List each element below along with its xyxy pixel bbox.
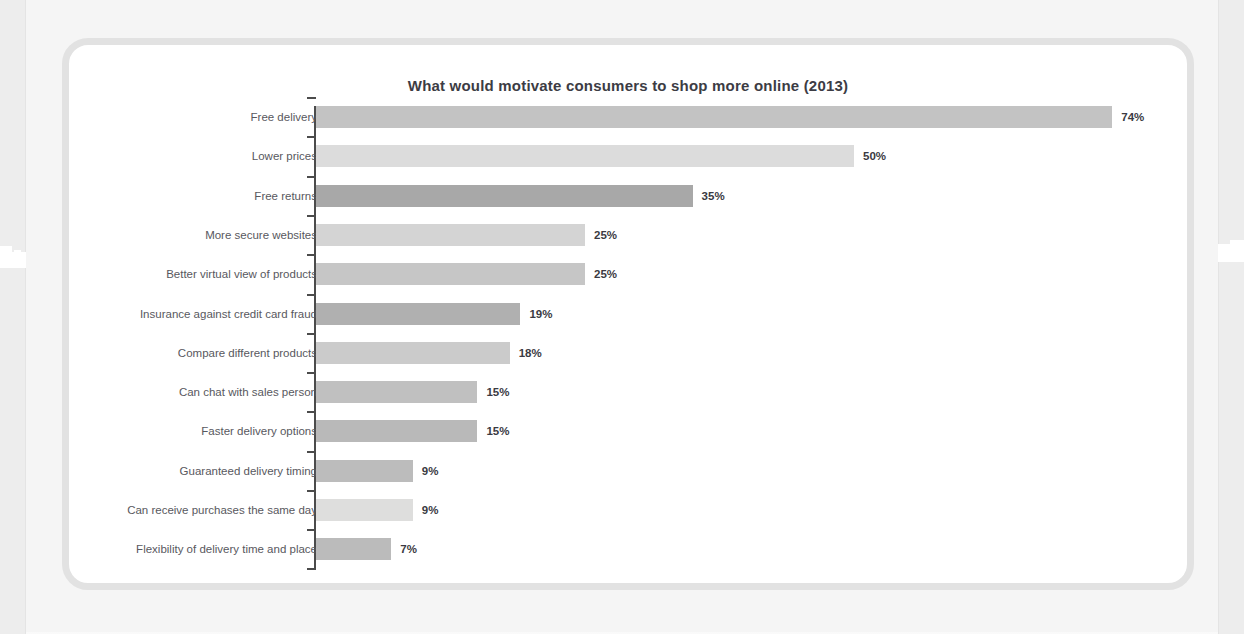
bar[interactable] bbox=[316, 381, 477, 403]
bar-value-label: 18% bbox=[519, 347, 542, 359]
chart-card: What would motivate consumers to shop mo… bbox=[62, 38, 1194, 590]
bar-category-label: Guaranteed delivery timing bbox=[180, 465, 317, 477]
bar-row: Can receive purchases the same day9% bbox=[69, 499, 1201, 521]
axis-tick bbox=[307, 254, 316, 256]
bar-row: Better virtual view of products25% bbox=[69, 263, 1201, 285]
bar[interactable] bbox=[316, 303, 520, 325]
bar-row: Compare different products18% bbox=[69, 342, 1201, 364]
bar-category-label: Free returns bbox=[254, 190, 317, 202]
bar-row: Insurance against credit card fraud19% bbox=[69, 303, 1201, 325]
axis-tick bbox=[307, 176, 316, 178]
bar[interactable] bbox=[316, 420, 477, 442]
bar-value-label: 25% bbox=[594, 268, 617, 280]
axis-tick bbox=[307, 97, 316, 99]
axis-tick bbox=[307, 333, 316, 335]
bar-row: Faster delivery options15% bbox=[69, 420, 1201, 442]
axis-tick bbox=[307, 529, 316, 531]
bar-category-label: Flexibility of delivery time and place bbox=[136, 543, 317, 555]
bar-value-label: 74% bbox=[1121, 111, 1144, 123]
bar-row: Free returns35% bbox=[69, 185, 1201, 207]
bar[interactable] bbox=[316, 342, 510, 364]
bar-value-label: 19% bbox=[529, 308, 552, 320]
bar-value-label: 15% bbox=[486, 425, 509, 437]
bar-row: Lower prices50% bbox=[69, 145, 1201, 167]
bar[interactable] bbox=[316, 263, 585, 285]
bar-category-label: Compare different products bbox=[178, 347, 317, 359]
bar-value-label: 50% bbox=[863, 150, 886, 162]
bar-value-label: 9% bbox=[422, 465, 439, 477]
bar[interactable] bbox=[316, 460, 413, 482]
bar[interactable] bbox=[316, 224, 585, 246]
axis-tick bbox=[307, 215, 316, 217]
bar[interactable] bbox=[316, 499, 413, 521]
torn-paper-edge-left bbox=[0, 0, 26, 634]
bar-row: Can chat with sales person15% bbox=[69, 381, 1201, 403]
bar-category-label: Lower prices bbox=[252, 150, 317, 162]
bar-chart-plot: Free delivery74%Lower prices50%Free retu… bbox=[69, 45, 1201, 597]
axis-tick bbox=[307, 411, 316, 413]
bar-category-label: More secure websites bbox=[205, 229, 317, 241]
bar-category-label: Better virtual view of products bbox=[166, 268, 317, 280]
axis-tick bbox=[307, 372, 316, 374]
bar-category-label: Insurance against credit card fraud bbox=[140, 308, 317, 320]
bar-row: Free delivery74% bbox=[69, 106, 1201, 128]
axis-tick bbox=[307, 568, 316, 570]
bar-category-label: Faster delivery options bbox=[201, 425, 317, 437]
bar-category-label: Can receive purchases the same day bbox=[127, 504, 317, 516]
bar[interactable] bbox=[316, 538, 391, 560]
torn-paper-edge-right bbox=[1218, 0, 1244, 634]
bar[interactable] bbox=[316, 145, 854, 167]
bar-value-label: 25% bbox=[594, 229, 617, 241]
bar[interactable] bbox=[316, 106, 1112, 128]
axis-tick bbox=[307, 490, 316, 492]
bar-value-label: 7% bbox=[400, 543, 417, 555]
bar-value-label: 35% bbox=[702, 190, 725, 202]
bar-row: Flexibility of delivery time and place7% bbox=[69, 538, 1201, 560]
bar-value-label: 9% bbox=[422, 504, 439, 516]
bar-value-label: 15% bbox=[486, 386, 509, 398]
bar[interactable] bbox=[316, 185, 693, 207]
bar-row: More secure websites25% bbox=[69, 224, 1201, 246]
bar-row: Guaranteed delivery timing9% bbox=[69, 460, 1201, 482]
axis-tick bbox=[307, 136, 316, 138]
bar-category-label: Can chat with sales person bbox=[179, 386, 317, 398]
axis-tick bbox=[307, 294, 316, 296]
axis-tick bbox=[307, 451, 316, 453]
bar-category-label: Free delivery bbox=[251, 111, 317, 123]
